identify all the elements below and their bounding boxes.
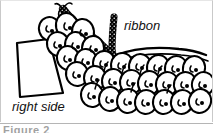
figure-caption: Figure 2 [3, 126, 50, 133]
illustration-frame: ribbon right side [0, 0, 213, 122]
caption-strip: Figure 2 [0, 126, 213, 133]
label-ribbon: ribbon [124, 19, 160, 32]
caption-divider [0, 123, 213, 124]
label-right-side: right side [12, 100, 65, 113]
figure-container: ribbon right side Figure 2 [0, 0, 213, 133]
